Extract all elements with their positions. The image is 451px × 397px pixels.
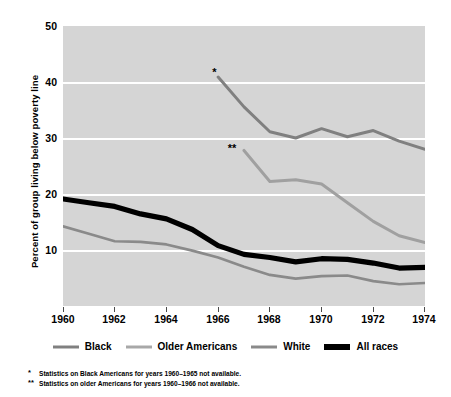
legend-item-black[interactable]: Black <box>53 341 112 352</box>
annotation-marker-double: ** <box>228 142 237 154</box>
series-line-older-americans <box>244 150 425 242</box>
plot-area: *** <box>63 26 425 306</box>
x-tickmark-1966 <box>218 307 219 312</box>
footnote-marker-single: * <box>28 369 39 377</box>
x-tick-1968: 1968 <box>246 313 292 325</box>
annotation-marker-single: * <box>212 66 217 78</box>
legend-swatch-all-races <box>324 343 350 351</box>
poverty-chart-figure: Percent of group living below poverty li… <box>0 0 451 397</box>
y-tick-50: 50 <box>27 21 57 32</box>
legend-item-all-races[interactable]: All races <box>324 341 398 352</box>
legend-swatch-black <box>53 343 79 351</box>
legend-item-older-americans[interactable]: Older Americans <box>126 341 238 352</box>
footnote-row-2: ** Statistics on older Americans for yea… <box>28 379 241 389</box>
x-tickmark-1974 <box>424 307 425 312</box>
legend-label-black: Black <box>85 341 112 352</box>
legend-label-older-americans: Older Americans <box>158 341 238 352</box>
chart-legend: Black Older Americans White All races <box>0 341 451 352</box>
x-tick-1964: 1964 <box>143 313 189 325</box>
series-line-all-races <box>63 199 425 268</box>
series-line-black <box>218 77 425 149</box>
x-tick-1962: 1962 <box>91 313 137 325</box>
x-tick-1970: 1970 <box>298 313 344 325</box>
x-tickmark-1960 <box>63 307 64 312</box>
x-tick-1960: 1960 <box>40 313 86 325</box>
legend-swatch-white <box>251 343 277 351</box>
legend-item-white[interactable]: White <box>251 341 310 352</box>
x-tickmark-1968 <box>269 307 270 312</box>
footnote-block: * Statistics on Black Americans for year… <box>28 369 241 388</box>
footnote-text-2: Statistics on older Americans for years … <box>39 379 240 389</box>
legend-label-white: White <box>283 341 310 352</box>
x-tick-1974: 1974 <box>401 313 447 325</box>
x-tickmark-1970 <box>321 307 322 312</box>
legend-swatch-older-americans <box>126 343 152 351</box>
y-tick-10: 10 <box>27 245 57 256</box>
x-tick-1966: 1966 <box>195 313 241 325</box>
footnote-text-1: Statistics on Black Americans for years … <box>39 369 241 379</box>
x-tickmark-1962 <box>114 307 115 312</box>
x-tickmark-1972 <box>373 307 374 312</box>
x-tickmark-1964 <box>166 307 167 312</box>
y-tick-40: 40 <box>27 77 57 88</box>
legend-label-all-races: All races <box>356 341 398 352</box>
y-tick-30: 30 <box>27 133 57 144</box>
footnote-marker-double: ** <box>28 379 39 387</box>
x-tick-1972: 1972 <box>350 313 396 325</box>
series-lines: *** <box>63 26 425 306</box>
footnote-row-1: * Statistics on Black Americans for year… <box>28 369 241 379</box>
y-tick-20: 20 <box>27 189 57 200</box>
